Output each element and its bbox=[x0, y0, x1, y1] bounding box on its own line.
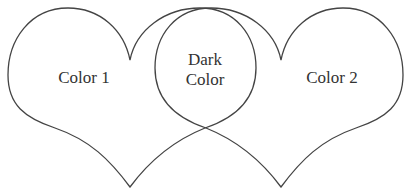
left-heart-outline bbox=[8, 8, 256, 187]
label-color-1: Color 1 bbox=[34, 68, 134, 88]
right-heart-outline bbox=[155, 8, 403, 187]
label-dark-color: Dark Color bbox=[155, 50, 255, 90]
label-color-2: Color 2 bbox=[282, 68, 382, 88]
label-dark-color-line1: Dark bbox=[155, 50, 255, 70]
venn-hearts-diagram bbox=[0, 0, 409, 193]
label-dark-color-line2: Color bbox=[155, 70, 255, 90]
